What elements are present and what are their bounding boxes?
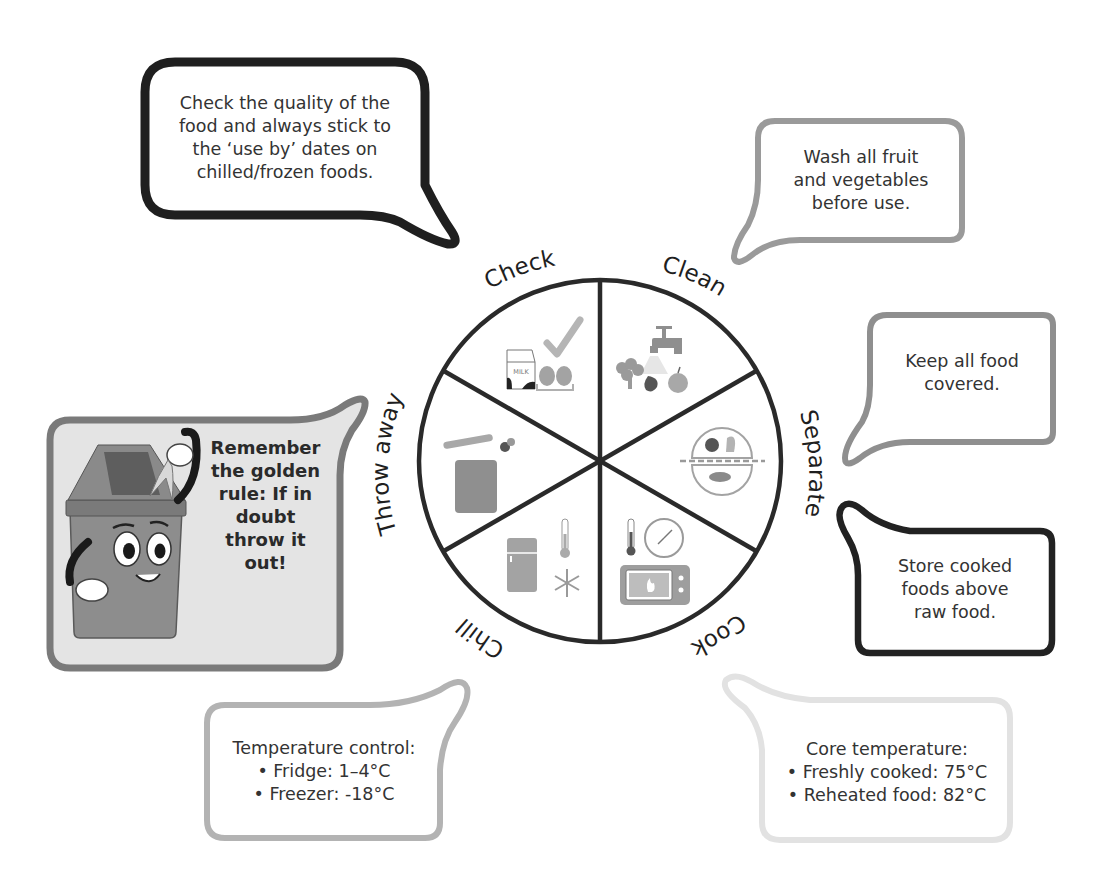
- thermometer-icon: [560, 519, 570, 558]
- segment-label-chill: Chill: [451, 614, 508, 665]
- svg-text:MILK: MILK: [513, 368, 529, 376]
- bubble-cook-text: Core temperature: • Freshly cooked: 75°C…: [766, 738, 1008, 807]
- clock-icon: [645, 519, 683, 557]
- segment-label-cook: Cook: [687, 609, 751, 663]
- segment-label-throw-away: Throw away: [367, 389, 408, 539]
- bubble-check-text: Check the quality of the food and always…: [152, 92, 418, 184]
- fridge-icon: [507, 538, 537, 592]
- bubble-clean-text: Wash all fruit and vegetables before use…: [762, 146, 960, 215]
- safety-wheel: MILK: [367, 245, 831, 664]
- segment-label-separate: Separate: [795, 407, 830, 519]
- bubble-throw-away-text: Remember the golden rule: If in doubt th…: [198, 436, 333, 574]
- bubble-separate-store-text: Store cooked foods above raw food.: [860, 555, 1050, 624]
- bubble-chill-text: Temperature control: • Fridge: 1–4°C • F…: [210, 737, 438, 806]
- milk-carton-icon: MILK: [507, 350, 535, 389]
- bubble-separate-cover-text: Keep all food covered.: [872, 350, 1052, 396]
- bin-icon: [455, 460, 497, 513]
- thermometer-icon: [627, 519, 636, 556]
- microwave-icon: [620, 565, 690, 605]
